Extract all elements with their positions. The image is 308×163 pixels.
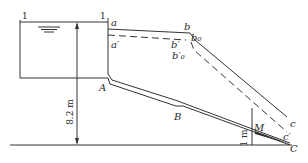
arrow-down-icon (75, 138, 79, 145)
label-B: B (173, 111, 181, 122)
label-c-prime: c′ (283, 131, 292, 142)
label-C: C (290, 143, 298, 154)
label-a: a (111, 17, 117, 28)
label-a-prime: a′ (111, 39, 120, 50)
water-surface-icon (38, 27, 60, 32)
section-label-left: 1 (22, 11, 28, 21)
label-A: A (98, 82, 106, 93)
label-b0: b₀ (191, 32, 201, 43)
label-b0-prime: b′₀ (172, 50, 185, 61)
height-label: 8.2 m (65, 99, 75, 125)
label-b-prime: b′ (171, 39, 180, 50)
hydraulic-grade-line-lower (191, 42, 287, 132)
height-dimension (75, 22, 79, 145)
label-M: M (253, 122, 265, 133)
label-c: c (290, 118, 296, 129)
pipe (108, 74, 290, 145)
pipe-flow-diagram: 1 1 8.2 m a a′ b b₀ b′ b′₀ c c′ A B C M … (0, 0, 308, 163)
m-height-label: 1 m (239, 129, 249, 147)
reservoir (20, 18, 108, 78)
label-b: b (184, 21, 190, 32)
arrow-up-icon (75, 22, 79, 29)
section-label-right: 1 (100, 11, 106, 21)
